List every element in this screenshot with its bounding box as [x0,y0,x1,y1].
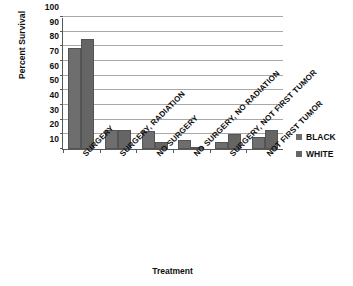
legend-item: BLACK [296,128,352,145]
bar-group [63,18,100,149]
y-tick-label: 10 [50,134,59,144]
legend-swatch-icon [296,134,302,140]
bar [215,142,228,149]
legend-swatch-icon [296,151,302,157]
legend-item: WHITE [296,145,352,162]
y-tick-label: 80 [50,31,59,41]
bar [81,39,94,149]
gridline [63,16,283,17]
y-tick-label: 60 [50,61,59,71]
legend-label: WHITE [306,149,333,159]
bar [68,48,81,149]
bar [178,140,191,149]
bar-chart: Percent Survival 100908070605040302010 S… [0,0,353,286]
y-tick-mark [60,16,63,17]
legend-label: BLACK [306,132,336,142]
y-tick-label: 90 [50,17,59,27]
y-tick-label: 70 [50,46,59,56]
y-tick-label: 20 [50,119,59,129]
y-tick-label: 50 [50,75,59,85]
legend: BLACKWHITE [296,128,352,162]
x-axis-title: Treatment [62,266,283,276]
y-axis-title: Percent Survival [17,0,31,99]
y-tick-label: 30 [50,105,59,115]
y-tick-label: 40 [50,90,59,100]
x-axis-tick-labels: SURGERYSURGERY, RADIATIONNO SURGERYNO SU… [62,152,283,252]
y-tick-label: 100 [45,2,59,12]
